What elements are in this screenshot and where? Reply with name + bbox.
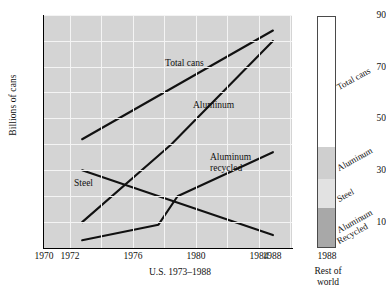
gridline-v <box>70 15 71 248</box>
x-tick-1972: 1972 <box>50 251 90 262</box>
gridline-h <box>44 15 292 16</box>
stacked-bar-caption-line1: Rest of <box>296 266 360 277</box>
gridline-v <box>259 15 260 248</box>
series-line-total-cans <box>82 31 273 140</box>
bar-segment-aluminum-recycled <box>318 208 335 247</box>
gridline-h <box>44 144 292 145</box>
series-line-steel <box>82 170 273 235</box>
gridline-h <box>44 170 292 171</box>
plot-area <box>44 15 292 248</box>
gridline-v <box>290 15 291 248</box>
x-axis-title: U.S. 1973–1988 <box>100 267 260 277</box>
stacked-bar-caption: Rest of world <box>296 266 360 288</box>
series-label-aluminum: Aluminum <box>193 100 234 111</box>
x-tick-1988: 1988 <box>252 251 292 262</box>
bar-segment-total-cans <box>318 17 335 147</box>
gridline-v <box>164 15 165 248</box>
gridline-v <box>133 15 134 248</box>
bar-legend-steel: Steel <box>335 187 356 204</box>
y-tick-50: 50 <box>350 113 386 123</box>
series-label-aluminum-recycled-line1: Aluminum <box>210 152 251 163</box>
x-tick-1980: 1980 <box>176 251 216 262</box>
stacked-bar-tick-label: 1988 <box>300 251 354 261</box>
series-label-total-cans: Total cans <box>165 58 204 69</box>
gridline-v <box>196 15 197 248</box>
gridline-v <box>101 15 102 248</box>
series-lines <box>44 15 292 248</box>
series-label-aluminum-recycled-line2: recycled <box>210 163 242 174</box>
bar-segment-steel <box>318 179 335 209</box>
gridline-h <box>44 92 292 93</box>
chart-figure: Billions of cans 90 70 50 30 10 Total ca… <box>0 0 386 304</box>
x-tick-1976: 1976 <box>113 251 153 262</box>
y-axis-label: Billions of cans <box>8 50 18 160</box>
gridline-v <box>227 15 228 248</box>
bar-segment-aluminum <box>318 147 335 179</box>
gridline-h <box>44 118 292 119</box>
x-axis-line <box>43 248 293 249</box>
stacked-bar-caption-line2: world <box>296 277 360 288</box>
y-tick-30: 30 <box>350 165 386 175</box>
gridline-h <box>44 222 292 223</box>
gridline-h <box>44 41 292 42</box>
rest-of-world-stacked-bar <box>317 16 336 248</box>
gridline-h <box>44 196 292 197</box>
series-label-steel: Steel <box>74 178 93 189</box>
y-tick-90: 90 <box>350 10 386 20</box>
